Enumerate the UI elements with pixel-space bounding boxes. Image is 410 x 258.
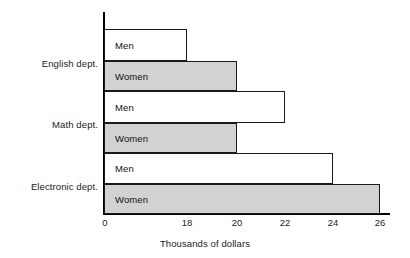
category-label-english: English dept.	[42, 58, 98, 69]
x-tick-22: 22	[280, 217, 291, 228]
category-label-math: Math dept.	[52, 119, 98, 130]
bar-english-women: Women	[104, 61, 237, 91]
x-tick-20: 20	[232, 217, 243, 228]
x-tick-24: 24	[328, 217, 339, 228]
bar-label-english-women: Women	[105, 71, 148, 82]
bar-label-electronic-men: Men	[105, 163, 134, 174]
bar-label-math-men: Men	[105, 102, 134, 113]
x-tick-26: 26	[375, 217, 386, 228]
x-tick-0: 0	[102, 217, 107, 228]
bar-math-men: Men	[104, 91, 285, 123]
bar-chart: English dept. Math dept. Electronic dept…	[0, 0, 410, 258]
bar-label-math-women: Women	[105, 133, 148, 144]
bar-label-english-men: Men	[105, 40, 134, 51]
bar-label-electronic-women: Women	[105, 194, 148, 205]
bar-electronic-men: Men	[104, 153, 333, 184]
bar-math-women: Women	[104, 123, 237, 153]
bar-english-men: Men	[104, 29, 187, 61]
bar-electronic-women: Women	[104, 184, 380, 214]
x-tick-18: 18	[182, 217, 193, 228]
x-axis-title: Thousands of dollars	[0, 238, 410, 250]
category-label-electronic: Electronic dept.	[31, 181, 98, 192]
